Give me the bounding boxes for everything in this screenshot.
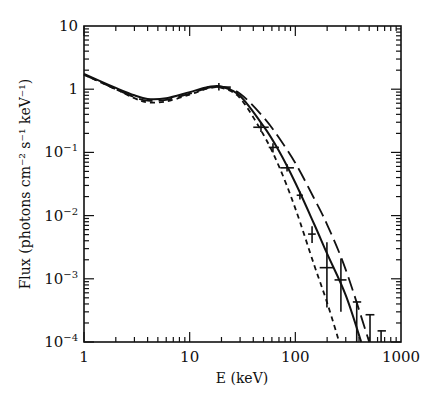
y-tick-label: 10−1 [44, 142, 78, 161]
x-tick-label: 1 [79, 348, 89, 366]
y-tick-label: 10 [59, 17, 78, 35]
x-axis-label: E (keV) [216, 370, 268, 386]
spectrum-chart: 1101001000 10110−110−210−310−4 E (keV) F… [0, 0, 438, 402]
data-points [207, 83, 386, 342]
data-point [269, 143, 279, 152]
data-point [308, 226, 316, 243]
curve-model-short-dash [84, 75, 339, 342]
data-point [207, 83, 231, 91]
x-tick-label: 100 [281, 348, 310, 366]
axis-ticks [84, 26, 401, 342]
upper-limit-point [366, 315, 375, 342]
data-point [280, 164, 294, 171]
y-tick-labels: 10110−110−210−310−4 [44, 17, 78, 351]
x-tick-label: 10 [180, 348, 199, 366]
x-tick-label: 1000 [382, 348, 420, 366]
x-tick-labels: 1101001000 [79, 348, 420, 366]
y-tick-label: 10−4 [44, 332, 78, 351]
y-tick-label: 10−3 [44, 269, 78, 288]
data-point [320, 242, 334, 307]
y-axis-label: Flux (photons cm⁻² s⁻¹ keV⁻¹) [17, 79, 33, 290]
plot-frame [84, 26, 401, 342]
y-tick-label: 10−2 [44, 206, 78, 225]
y-tick-label: 1 [68, 80, 78, 98]
